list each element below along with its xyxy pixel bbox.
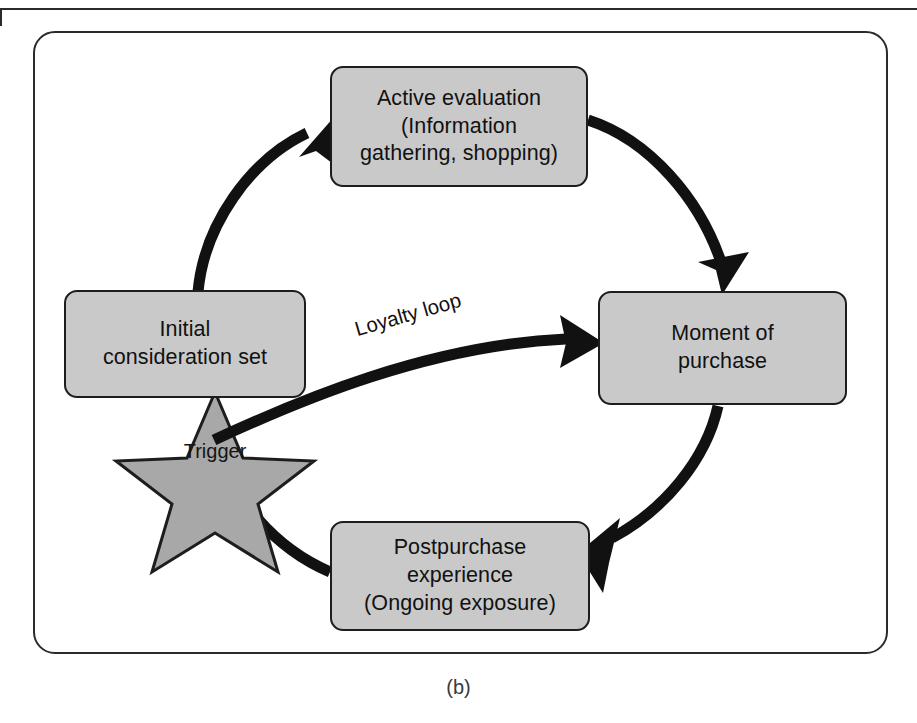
node-active-evaluation-label: Active evaluation (Information gathering… <box>354 85 564 169</box>
figure-root: Active evaluation (Information gathering… <box>0 0 917 723</box>
page-rule-top <box>0 8 917 10</box>
page-rule-left <box>0 8 2 26</box>
node-initial-consideration-set[interactable]: Initial consideration set <box>64 290 306 398</box>
node-postpurchase-experience[interactable]: Postpurchase experience (Ongoing exposur… <box>330 521 590 631</box>
node-initial-consideration-set-label: Initial consideration set <box>97 316 273 372</box>
node-active-evaluation[interactable]: Active evaluation (Information gathering… <box>330 66 588 187</box>
node-moment-of-purchase-label: Moment of purchase <box>665 320 779 376</box>
node-postpurchase-experience-label: Postpurchase experience (Ongoing exposur… <box>332 534 588 618</box>
figure-caption: (b) <box>0 676 917 699</box>
node-moment-of-purchase[interactable]: Moment of purchase <box>598 291 847 405</box>
